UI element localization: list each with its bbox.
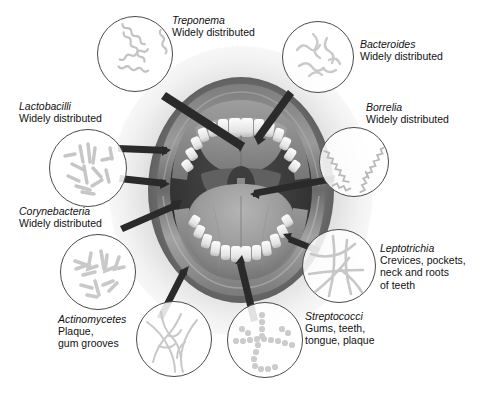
bacteria-circle-bacteroides bbox=[282, 21, 354, 93]
label-corynebacteria: Corynebacteria Widely distributed bbox=[19, 205, 102, 229]
genus-borrelia: Borrelia bbox=[366, 101, 449, 113]
habitat-leptotrichia-line3: of teeth bbox=[380, 279, 466, 291]
label-lactobacilli: Lactobacilli Widely distributed bbox=[19, 100, 102, 124]
habitat-borrelia: Widely distributed bbox=[366, 113, 449, 125]
genus-leptotrichia: Leptotrichia bbox=[380, 242, 466, 254]
label-streptococci: Streptococci Gums, teeth, tongue, plaque bbox=[305, 310, 374, 347]
habitat-leptotrichia-line2: neck and roots bbox=[380, 266, 466, 278]
genus-lactobacilli: Lactobacilli bbox=[19, 100, 102, 112]
label-leptotrichia: Leptotrichia Crevices, pockets, neck and… bbox=[380, 242, 466, 291]
habitat-actinomycetes-line1: Plaque, bbox=[58, 325, 126, 337]
label-treponema: Treponema Widely distributed bbox=[172, 14, 255, 38]
label-borrelia: Borrelia Widely distributed bbox=[366, 101, 449, 125]
genus-streptococci: Streptococci bbox=[305, 310, 374, 322]
genus-bacteroides: Bacteroides bbox=[360, 38, 443, 50]
habitat-actinomycetes-line2: gum grooves bbox=[58, 337, 126, 349]
bacteria-circle-streptococci bbox=[227, 302, 303, 378]
habitat-streptococci-line1: Gums, teeth, bbox=[305, 322, 374, 334]
label-bacteroides: Bacteroides Widely distributed bbox=[360, 38, 443, 62]
habitat-treponema: Widely distributed bbox=[172, 26, 255, 38]
bacteria-circle-leptotrichia bbox=[302, 229, 376, 303]
bacteria-circle-actinomycetes bbox=[136, 301, 212, 377]
bacteria-circle-corynebacteria bbox=[60, 234, 136, 310]
bacteria-circle-treponema bbox=[97, 16, 173, 92]
habitat-corynebacteria: Widely distributed bbox=[19, 217, 102, 229]
oral-bacteria-figure: Treponema Widely distributed Bacteroides… bbox=[0, 0, 485, 396]
genus-treponema: Treponema bbox=[172, 14, 255, 26]
habitat-streptococci-line2: tongue, plaque bbox=[305, 334, 374, 346]
genus-actinomycetes: Actinomycetes bbox=[58, 313, 126, 325]
bacteria-circle-lactobacilli bbox=[49, 129, 127, 207]
habitat-lactobacilli: Widely distributed bbox=[19, 112, 102, 124]
genus-corynebacteria: Corynebacteria bbox=[19, 205, 102, 217]
habitat-bacteroides: Widely distributed bbox=[360, 50, 443, 62]
label-actinomycetes: Actinomycetes Plaque, gum grooves bbox=[58, 313, 126, 350]
bacteria-circle-borrelia bbox=[319, 127, 389, 197]
habitat-leptotrichia-line1: Crevices, pockets, bbox=[380, 254, 466, 266]
